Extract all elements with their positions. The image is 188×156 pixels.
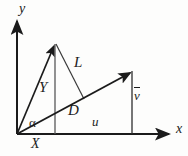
axis-label-y: y <box>19 2 25 16</box>
segment-label-L: L <box>74 55 82 70</box>
component-label-v: v <box>134 89 140 102</box>
vector-label-Y: Y <box>39 80 47 95</box>
component-label-X: X <box>31 137 40 151</box>
component-label-v-text: v <box>134 89 140 102</box>
component-label-u: u <box>92 115 99 128</box>
diagram-svg <box>0 0 188 156</box>
segment-L-line <box>56 44 84 99</box>
vector-label-D: D <box>68 103 79 118</box>
angle-label-alpha: α <box>29 116 36 129</box>
figure-canvas: y x Y L D X u α v <box>0 0 188 156</box>
axis-label-x: x <box>176 122 182 136</box>
